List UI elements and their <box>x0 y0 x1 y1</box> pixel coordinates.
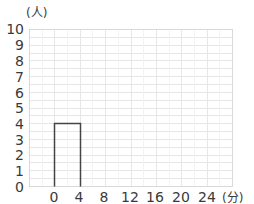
y-tick-2: 2 <box>2 148 24 162</box>
y-tick-6: 6 <box>2 86 24 100</box>
y-axis-unit-label: (人) <box>26 6 47 20</box>
x-tick-12: 12 <box>118 190 142 204</box>
plot-area <box>0 0 254 204</box>
y-tick-9: 9 <box>2 38 24 52</box>
y-tick-4: 4 <box>2 117 24 131</box>
y-tick-1: 1 <box>2 164 24 178</box>
y-tick-10: 10 <box>2 22 24 36</box>
x-tick-16: 16 <box>143 190 167 204</box>
x-tick-4: 4 <box>67 190 91 204</box>
y-tick-7: 7 <box>2 70 24 84</box>
x-tick-8: 8 <box>92 190 116 204</box>
y-tick-3: 3 <box>2 133 24 147</box>
x-tick-20: 20 <box>169 190 193 204</box>
x-tick-0: 0 <box>42 190 66 204</box>
y-tick-5: 5 <box>2 101 24 115</box>
x-axis-unit-label: (分) <box>222 191 243 204</box>
y-tick-0: 0 <box>2 180 24 194</box>
histogram-chart: (人) 10 9 8 7 6 5 4 3 2 1 0 0 4 8 12 16 2… <box>0 0 254 204</box>
y-tick-8: 8 <box>2 54 24 68</box>
x-tick-24: 24 <box>195 190 219 204</box>
